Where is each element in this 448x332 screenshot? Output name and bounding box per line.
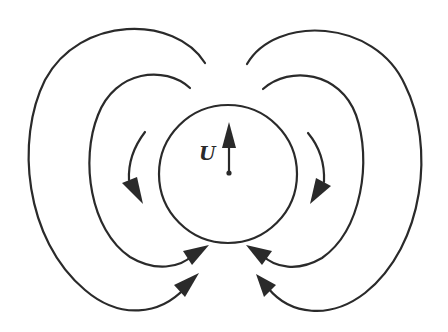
streamline-right-outer <box>247 31 421 311</box>
streamline-left-inner <box>122 132 145 204</box>
velocity-label: U <box>199 142 217 164</box>
flow-diagram: U <box>0 0 448 332</box>
streamline-left-outer <box>29 29 205 311</box>
streamline-right-middle <box>246 75 363 266</box>
streamline-right-inner <box>308 133 331 204</box>
streamline-left-middle <box>89 75 209 267</box>
velocity-arrow-icon <box>222 122 236 176</box>
